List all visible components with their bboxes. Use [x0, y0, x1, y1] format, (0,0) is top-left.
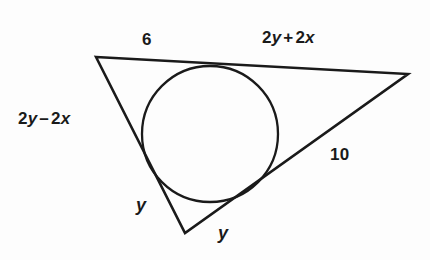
label-text: 2y–2x	[18, 109, 70, 128]
label-text: y	[136, 195, 146, 215]
label-text: 10	[330, 145, 349, 164]
diagram-canvas	[0, 0, 430, 260]
label-tangent-bottom-right: y	[218, 224, 228, 242]
geometry-figure: 6 2y+2x 2y–2x 10 y y	[0, 0, 430, 260]
label-side-top-right: 2y+2x	[262, 29, 315, 46]
label-side-left: 2y–2x	[18, 110, 70, 127]
label-text: 2y+2x	[262, 28, 315, 47]
label-tangent-bottom-left: y	[136, 196, 146, 214]
label-side-top-left: 6	[142, 31, 152, 48]
label-text: 6	[142, 30, 152, 49]
label-text: y	[218, 223, 228, 243]
label-side-right: 10	[330, 146, 349, 163]
